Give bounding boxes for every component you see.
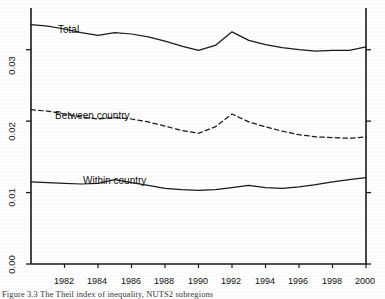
y-tick-label-0: 0.00: [6, 250, 17, 280]
figure-caption: Figure 3.3 The Theil index of inequality…: [2, 289, 383, 299]
y-tick-label-3: 0.03: [6, 51, 17, 81]
x-tick-label-2000: 2000: [345, 276, 385, 286]
y-tick-label-2: 0.02: [6, 117, 17, 147]
series-line-within-country: [31, 178, 366, 191]
y-tick-label-1: 0.01: [6, 183, 17, 213]
series-line-total: [31, 25, 366, 51]
chart-axes: [26, 8, 371, 268]
chart-series-group: [31, 25, 366, 191]
series-label-total: Total: [58, 24, 79, 35]
series-label-within-country: Within country: [83, 175, 146, 186]
series-label-between-country: Between country: [55, 110, 130, 121]
